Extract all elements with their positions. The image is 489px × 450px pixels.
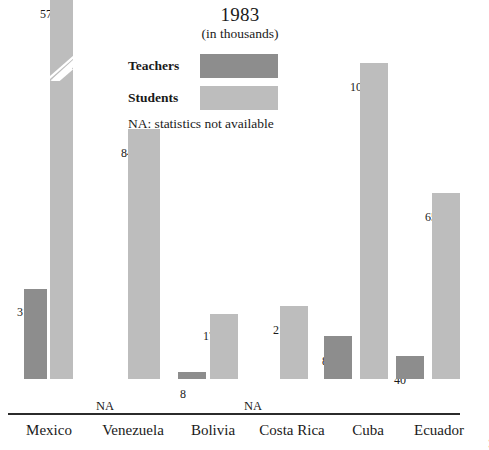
bar-teachers-bolivia <box>178 372 206 379</box>
bar-teachers-mexico <box>24 289 47 379</box>
x-tick-label-mexico: Mexico <box>8 421 90 439</box>
bar-students-ecuador <box>432 193 460 379</box>
bar-students-bolivia <box>210 314 238 379</box>
x-tick-label-venezuela: Venezuela <box>88 421 178 439</box>
bar-students-mexico <box>50 0 73 379</box>
bar-students-costa-rica <box>280 306 308 379</box>
na-label-teachers-costa-rica: NA <box>233 399 273 414</box>
bar-teachers-ecuador <box>396 356 424 379</box>
bar-chart-plot-area: 317 5715 NA 842 8 175 NA 213 86 1056 40 … <box>0 0 460 416</box>
na-label-teachers-venezuela: NA <box>85 399 125 414</box>
bar-teachers-cuba <box>324 336 352 379</box>
bar-value-teachers-bolivia: 8 <box>163 388 203 401</box>
bar-students-cuba <box>360 63 388 379</box>
bar-students-venezuela <box>128 129 160 379</box>
x-axis-line <box>8 413 460 415</box>
x-tick-label-costa-rica: Costa Rica <box>244 421 340 439</box>
x-tick-label-ecuador: Ecuador <box>396 421 482 439</box>
x-tick-label-cuba: Cuba <box>332 421 404 439</box>
x-tick-label-bolivia: Bolivia <box>176 421 250 439</box>
